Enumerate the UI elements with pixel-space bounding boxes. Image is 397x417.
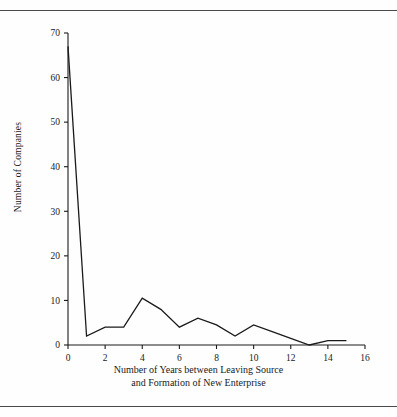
x-tick-label: 4: [140, 353, 145, 363]
x-axis-ticks: [68, 345, 365, 349]
x-axis-title-line-2: and Formation of New Enterprise: [0, 377, 397, 390]
x-tick-label: 16: [360, 353, 370, 363]
x-axis-group: 0246810121416: [66, 345, 370, 363]
x-tick-label: 12: [286, 353, 296, 363]
y-tick-label: 70: [51, 28, 61, 38]
clipped-header-text: · ·: [0, 0, 397, 2]
y-axis-group: 010203040506070: [51, 28, 69, 350]
bottom-horizontal-rule: [0, 406, 397, 407]
y-tick-label: 40: [51, 162, 61, 172]
y-tick-label: 10: [51, 296, 61, 306]
x-tick-label: 10: [249, 353, 259, 363]
chart-figure: 010203040506070 0246810121416 Number of …: [0, 12, 397, 404]
figure-page: · · 010203040506070 0246810121416 Number…: [0, 0, 397, 417]
data-series-line: [68, 46, 346, 345]
y-tick-label: 0: [55, 340, 60, 350]
x-axis-title: Number of Years between Leaving Source a…: [0, 364, 397, 389]
top-horizontal-rule: [0, 10, 397, 11]
y-tick-label: 60: [51, 73, 61, 83]
y-axis-title: Number of Companies: [13, 107, 23, 227]
line-chart-svg: 010203040506070 0246810121416: [0, 12, 397, 404]
y-tick-label: 50: [51, 117, 61, 127]
y-tick-label: 20: [51, 251, 61, 261]
x-tick-label: 6: [177, 353, 182, 363]
x-tick-label: 8: [214, 353, 219, 363]
x-axis-title-line-1: Number of Years between Leaving Source: [0, 364, 397, 377]
y-tick-label: 30: [51, 207, 61, 217]
x-axis-tick-labels: 0246810121416: [66, 353, 370, 363]
x-tick-label: 14: [323, 353, 333, 363]
x-tick-label: 2: [103, 353, 108, 363]
y-axis-ticks: [64, 33, 68, 345]
x-tick-label: 0: [66, 353, 71, 363]
y-axis-tick-labels: 010203040506070: [51, 28, 61, 350]
